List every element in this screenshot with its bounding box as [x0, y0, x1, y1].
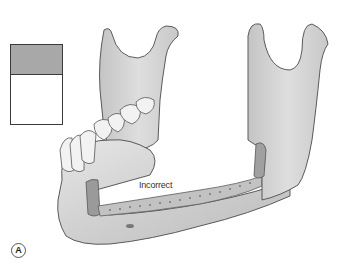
- posterior-cut-surface: [254, 143, 266, 178]
- canine: [80, 130, 96, 163]
- mental-foramen: [126, 224, 134, 228]
- mandible-illustration: [0, 0, 348, 271]
- legend-box: [10, 44, 63, 125]
- anterior-cut-surface: [86, 179, 100, 216]
- legend-shaded-swatch: [11, 45, 62, 75]
- panel-label: A: [11, 243, 26, 258]
- annotation-label: Incorrect: [139, 180, 172, 190]
- mandible-figure: Incorrect A: [0, 0, 348, 271]
